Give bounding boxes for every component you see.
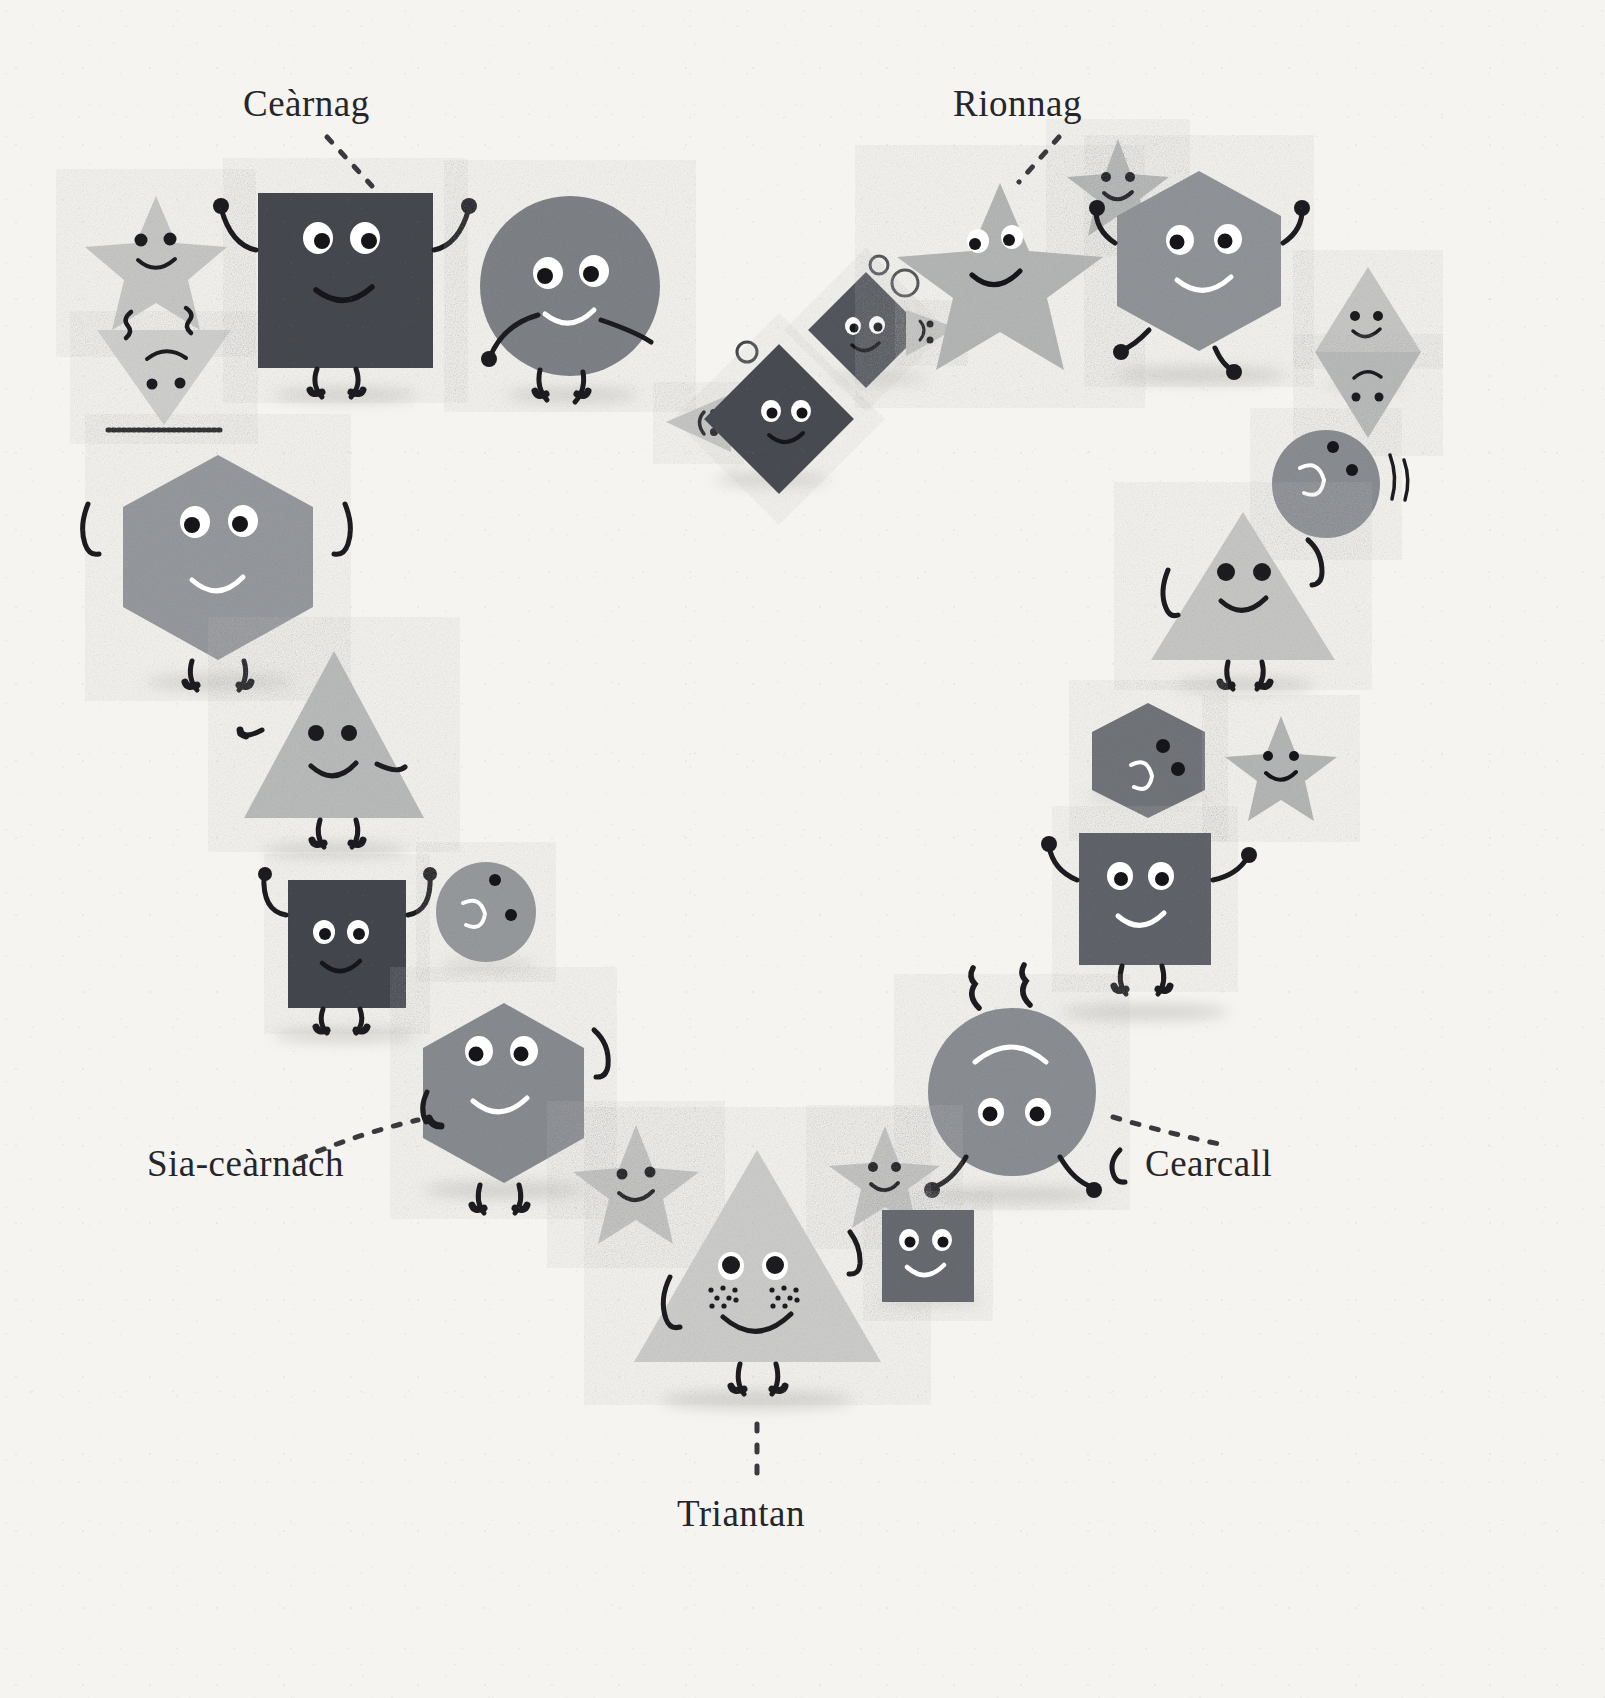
triangle-up-right-pair xyxy=(1315,267,1421,352)
diamond-lower xyxy=(704,344,854,494)
circle-cearcall xyxy=(924,965,1125,1198)
square-right-big xyxy=(1041,833,1257,994)
star-right-mid xyxy=(1225,716,1337,821)
square-cearnag xyxy=(213,193,477,397)
label-sia-cearnach: Sia-ceàrnach xyxy=(147,1142,344,1185)
hexagon-sia-cearnach xyxy=(423,1003,608,1213)
triangle-down-right-pair xyxy=(1315,352,1421,438)
circle-small-left xyxy=(436,862,536,962)
hexagon-left-big xyxy=(83,455,351,690)
hexagon-small-right xyxy=(1092,703,1205,818)
square-bottom-small xyxy=(882,1210,974,1302)
leader-cearnag xyxy=(327,137,372,186)
square-left-mid xyxy=(258,867,437,1033)
star-bottom-left xyxy=(573,1125,699,1244)
triangle-big-right xyxy=(1151,512,1335,689)
shapes-artwork xyxy=(0,0,1605,1698)
illustration-canvas: Ceàrnag Rionnag Sia-ceàrnach Cearcall Tr… xyxy=(0,0,1605,1698)
circle-top xyxy=(480,196,660,402)
label-rionnag: Rionnag xyxy=(953,82,1082,125)
leader-rionnag xyxy=(1019,137,1059,182)
label-cearcall: Cearcall xyxy=(1145,1142,1272,1185)
label-triantan: Triantan xyxy=(677,1492,805,1535)
circle-small-right xyxy=(1272,430,1408,538)
label-cearnag: Ceàrnag xyxy=(243,82,370,125)
star-small-topleft xyxy=(85,196,227,330)
